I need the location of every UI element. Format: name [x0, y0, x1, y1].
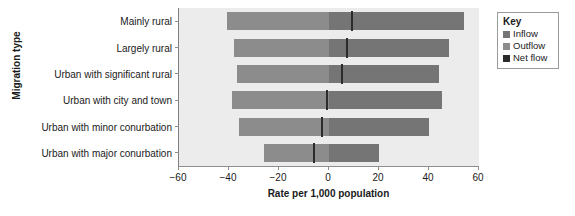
bar-group	[179, 65, 479, 83]
x-axis-title: Rate per 1,000 population	[178, 188, 479, 199]
x-axis-tick-label: −60	[158, 172, 198, 183]
x-axis-tick-label: 40	[408, 172, 448, 183]
x-axis-tick	[428, 166, 429, 170]
plot-area	[178, 8, 479, 166]
bar-group	[179, 12, 479, 30]
x-axis-tick	[228, 166, 229, 170]
bar-segment-outflow	[234, 39, 329, 57]
x-axis-tick	[378, 166, 379, 170]
category-label: Urban with significant rural	[20, 68, 172, 79]
legend: Key InflowOutflowNet flow	[497, 12, 559, 69]
legend-item-label: Inflow	[513, 28, 538, 40]
legend-item-label: Net flow	[513, 52, 547, 64]
category-tick	[175, 21, 179, 22]
bar-segment-inflow	[329, 65, 439, 83]
x-axis-tick	[328, 166, 329, 170]
net-flow-marker	[351, 11, 353, 31]
category-axis-labels: Mainly ruralLargely ruralUrban with sign…	[20, 8, 172, 166]
bar-segment-inflow	[329, 144, 379, 162]
category-tick	[175, 126, 179, 127]
category-label: Urban with minor conurbation	[20, 121, 172, 132]
x-axis-tick-label: −20	[258, 172, 298, 183]
category-label: Largely rural	[20, 42, 172, 53]
bar-segment-outflow	[264, 144, 329, 162]
bar-chart: Migration type Mainly ruralLargely rural…	[0, 0, 575, 216]
category-label: Urban with city and town	[20, 95, 172, 106]
legend-items: InflowOutflowNet flow	[503, 28, 554, 64]
category-tick	[175, 152, 179, 153]
x-axis-tick-label: 20	[358, 172, 398, 183]
net-flow-marker	[341, 64, 343, 84]
bar-group	[179, 144, 479, 162]
category-tick	[175, 47, 179, 48]
net-flow-marker	[346, 38, 348, 58]
net-flow-marker	[326, 90, 328, 110]
bar-segment-outflow	[227, 12, 330, 30]
bar-group	[179, 118, 479, 136]
net-flow-marker	[313, 143, 315, 163]
legend-item-label: Outflow	[513, 40, 545, 52]
bar-segment-outflow	[239, 118, 329, 136]
legend-item: Net flow	[503, 52, 554, 64]
category-label: Mainly rural	[20, 16, 172, 27]
bar-group	[179, 39, 479, 57]
bar-segment-outflow	[232, 91, 330, 109]
legend-item: Inflow	[503, 28, 554, 40]
category-tick	[175, 73, 179, 74]
legend-swatch-icon	[503, 31, 510, 38]
bar-segment-inflow	[329, 118, 429, 136]
bar-segment-outflow	[237, 65, 330, 83]
x-axis-tick-label: 60	[458, 172, 498, 183]
legend-item: Outflow	[503, 40, 554, 52]
plot-background	[179, 8, 479, 166]
x-axis-tick	[178, 166, 179, 170]
legend-swatch-icon	[503, 55, 510, 62]
bar-group	[179, 91, 479, 109]
bar-segment-inflow	[329, 12, 464, 30]
category-label: Urban with major conurbation	[20, 147, 172, 158]
x-axis-tick-label: −40	[208, 172, 248, 183]
x-axis-tick	[278, 166, 279, 170]
net-flow-marker	[321, 117, 323, 137]
x-axis-tick-label: 0	[308, 172, 348, 183]
x-axis-tick	[478, 166, 479, 170]
legend-title: Key	[503, 16, 554, 27]
bar-segment-inflow	[329, 91, 442, 109]
category-tick	[175, 100, 179, 101]
legend-swatch-icon	[503, 43, 510, 50]
